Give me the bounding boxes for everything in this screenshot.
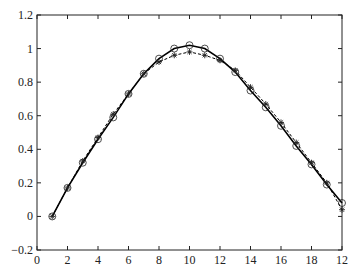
x-tick-label: 10 xyxy=(184,253,196,267)
x-tick-label: 6 xyxy=(126,253,132,267)
star-marker xyxy=(141,71,147,77)
star-marker xyxy=(278,119,284,125)
y-tick-label: 1 xyxy=(27,42,33,56)
y-tick-label: 0 xyxy=(27,209,33,223)
star-marker xyxy=(171,52,177,58)
x-tick-label: 14 xyxy=(245,253,257,267)
y-axis: −0.200.20.40.60.811.2 xyxy=(11,8,342,257)
x-tick-label: 12 xyxy=(336,253,348,267)
series-layer xyxy=(49,42,346,220)
solid-circle-line xyxy=(52,45,342,216)
star-marker xyxy=(110,111,116,117)
star-marker xyxy=(49,213,55,219)
star-marker xyxy=(202,52,208,58)
y-tick-label: 0.2 xyxy=(18,176,33,190)
x-tick-label: 4 xyxy=(95,253,101,267)
line-chart: −0.200.20.40.60.811.2 02468101214161812 xyxy=(0,0,358,275)
star-marker xyxy=(324,180,330,186)
star-marker xyxy=(217,57,223,63)
star-marker xyxy=(95,135,101,141)
y-tick-label: 1.2 xyxy=(18,8,33,22)
x-tick-label: 16 xyxy=(275,253,287,267)
star-marker xyxy=(232,67,238,73)
y-tick-label: 0.6 xyxy=(18,109,33,123)
star-marker xyxy=(156,59,162,65)
star-marker xyxy=(263,101,269,107)
star-marker xyxy=(80,158,86,164)
star-marker xyxy=(248,84,254,90)
x-tick-label: 2 xyxy=(65,253,71,267)
x-tick-label: 0 xyxy=(34,253,40,267)
y-tick-label: −0.2 xyxy=(11,243,33,257)
y-tick-label: 0.8 xyxy=(18,75,33,89)
star-marker xyxy=(339,207,345,213)
x-tick-label: 8 xyxy=(156,253,162,267)
x-tick-label: 18 xyxy=(306,253,318,267)
dashed-star-line xyxy=(52,52,342,217)
star-marker xyxy=(126,91,132,97)
star-marker xyxy=(187,49,193,55)
x-tick-label: 12 xyxy=(214,253,226,267)
y-tick-label: 0.4 xyxy=(18,142,33,156)
